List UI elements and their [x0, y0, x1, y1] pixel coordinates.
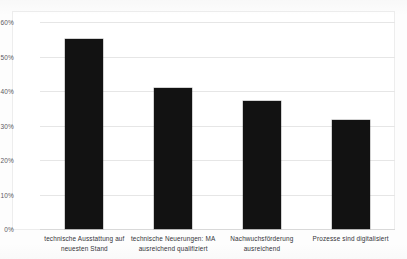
- x-category-label: technische Ausstattung auf neuesten Stan…: [42, 234, 127, 253]
- x-category-label: Prozesse sind digitalisiert: [308, 234, 393, 244]
- y-tick-label: 20%: [0, 157, 14, 164]
- bar: [243, 101, 281, 229]
- bar: [332, 120, 370, 229]
- x-category-label: technische Neuerungen: MA ausreichend qu…: [131, 234, 216, 253]
- y-axis: 0%10%20%30%40%50%60%: [0, 0, 40, 259]
- y-tick-label: 40%: [0, 88, 14, 95]
- cropped-title-strip: [0, 0, 407, 9]
- bar-chart: 0%10%20%30%40%50%60% technische Ausstatt…: [0, 0, 407, 259]
- x-axis: technische Ausstattung auf neuesten Stan…: [12, 234, 395, 259]
- bar: [154, 88, 192, 229]
- y-tick-label: 30%: [0, 122, 14, 129]
- bar: [65, 39, 103, 229]
- y-tick-label: 10%: [0, 191, 14, 198]
- y-tick-label: 0%: [4, 226, 14, 233]
- x-category-label: Nachwuchsförderung ausreichend: [220, 234, 305, 253]
- y-tick-label: 50%: [0, 53, 14, 60]
- bar-series: [40, 22, 395, 229]
- y-tick-label: 60%: [0, 19, 14, 26]
- gridline-0: [40, 229, 395, 230]
